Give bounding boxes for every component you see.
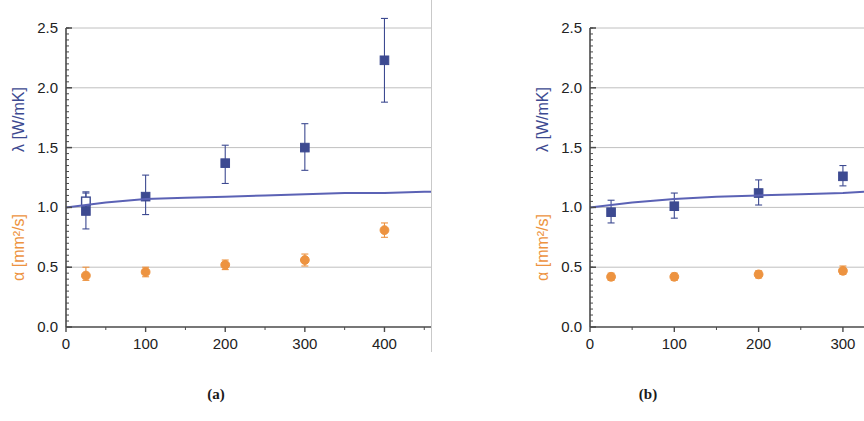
y-axis-tick-label: 1.5 [37,139,58,156]
data-point-circle [300,256,309,265]
y-axis-tick-label: 2.0 [37,79,58,96]
fit-curve-line [590,192,864,208]
y-axis-tick-label: 1.0 [37,198,58,215]
y-axis-title-alpha: α [mm²/s] [534,214,551,281]
data-point-square [301,143,310,152]
subfigure-caption-a: (a) [0,386,432,403]
y-axis-tick-label: 1.5 [561,139,582,156]
series-3 [66,192,432,208]
figure-root: 01002003004005000.00.51.01.52.02.5T [°C]… [0,0,864,421]
y-axis-tick-label: 0.0 [561,318,582,335]
subfigure-caption-b: (b) [432,386,864,403]
data-point-circle [839,266,848,275]
data-point-square [839,172,848,181]
data-point-circle [670,272,679,281]
x-axis-tick-label: 200 [746,335,771,352]
x-axis-tick-label: 200 [213,335,238,352]
data-point-square [607,208,616,217]
chart-panel-b: 01002003000.00.51.01.52.02.5T [°C]λ [W/m… [432,0,864,421]
series-2 [590,192,864,208]
y-axis-title-lambda: λ [W/mK] [10,87,27,152]
x-axis-tick-label: 100 [662,335,687,352]
data-point-circle [754,270,763,279]
y-axis-tick-label: 0.5 [37,258,58,275]
data-point-circle [380,226,389,235]
x-axis-tick-label: 0 [62,335,70,352]
scatter-plot-a: 01002003004005000.00.51.01.52.02.5T [°C]… [0,0,432,352]
y-axis-title-alpha: α [mm²/s] [10,214,27,281]
data-point-circle [221,260,230,269]
data-point-circle [141,268,150,277]
data-point-circle [607,272,616,281]
data-point-circle [82,271,91,280]
series-2 [82,223,432,280]
series-0 [82,18,432,228]
data-point-square [380,56,389,65]
y-axis-tick-label: 0.5 [561,258,582,275]
x-axis-tick-label: 300 [292,335,317,352]
y-axis-tick-label: 0.0 [37,318,58,335]
data-point-square [670,202,679,211]
series-1 [607,266,848,281]
x-axis-tick-label: 400 [372,335,397,352]
x-axis-tick-label: 100 [133,335,158,352]
x-axis-tick-label: 0 [586,335,594,352]
y-axis-tick-label: 2.5 [37,19,58,36]
scatter-plot-b: 01002003000.00.51.01.52.02.5T [°C]λ [W/m… [432,0,864,352]
fit-curve-line [66,192,432,208]
x-axis-tick-label: 300 [830,335,855,352]
data-point-square [221,159,230,168]
chart-panel-a: 01002003004005000.00.51.01.52.02.5T [°C]… [0,0,432,421]
y-axis-title-lambda: λ [W/mK] [534,87,551,152]
y-axis-tick-label: 2.5 [561,19,582,36]
y-axis-tick-label: 2.0 [561,79,582,96]
y-axis-tick-label: 1.0 [561,198,582,215]
